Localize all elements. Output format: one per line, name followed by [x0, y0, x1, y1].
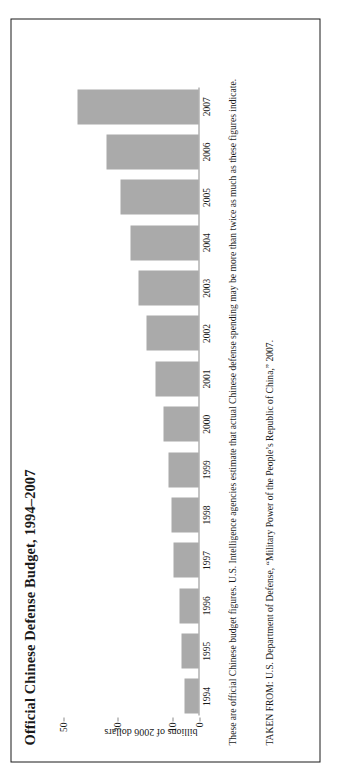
- bar: [130, 225, 197, 260]
- bar: [106, 134, 197, 169]
- figure-frame: Official Chinese Defense Budget, 1994–20…: [10, 18, 320, 762]
- x-axis-tick-label: 1998: [201, 496, 211, 534]
- bar-series: [50, 87, 198, 715]
- bar: [77, 89, 198, 124]
- x-axis-tick-label: 2001: [201, 359, 211, 397]
- bar: [138, 270, 197, 305]
- x-axis-tick-label: 1999: [201, 450, 211, 488]
- x-axis-labels: 1994199519961997199819992000200120022003…: [201, 87, 211, 715]
- bar: [179, 588, 198, 623]
- bar-column: [50, 178, 198, 216]
- x-axis-tick-label: 1994: [201, 677, 211, 715]
- bar: [181, 633, 197, 668]
- bar: [155, 361, 198, 396]
- x-axis-line: [198, 87, 199, 715]
- y-tick-10: 10: [167, 717, 177, 761]
- y-tick-mark: [172, 717, 173, 721]
- bar: [146, 316, 197, 351]
- x-axis-tick-label: 2002: [201, 314, 211, 352]
- x-axis-tick-label: 2006: [201, 133, 211, 171]
- bar: [173, 542, 197, 577]
- y-tick-mark: [63, 717, 64, 721]
- x-axis-tick-label: 2004: [201, 223, 211, 261]
- x-axis-tick-label: 2003: [201, 269, 211, 307]
- bar-column: [50, 405, 198, 443]
- bar-column: [50, 359, 198, 397]
- bar-column: [50, 677, 198, 715]
- x-axis-tick-label: 2007: [201, 87, 211, 125]
- bar-column: [50, 541, 198, 579]
- bar-chart-plot: 1994199519961997199819992000200120022003…: [49, 87, 199, 715]
- x-axis-tick-label: 2000: [201, 405, 211, 443]
- bar-column: [50, 314, 198, 352]
- bar-column: [50, 269, 198, 307]
- y-axis-label: billions of 2006 dollars: [76, 727, 226, 738]
- bar: [120, 179, 198, 214]
- bar: [163, 406, 198, 441]
- figure-note: These are official Chinese budget figure…: [226, 39, 239, 745]
- y-tick-30: 30: [112, 717, 122, 761]
- bar-column: [50, 496, 198, 534]
- bar-column: [50, 632, 198, 670]
- bar-column: [50, 223, 198, 261]
- x-axis-tick-label: 2005: [201, 178, 211, 216]
- bar-column: [50, 87, 198, 125]
- x-axis-tick-label: 1997: [201, 541, 211, 579]
- bar: [168, 452, 198, 487]
- y-tick-0: 0: [194, 717, 204, 761]
- y-axis: 50 30 10 0 billions of 2006 dollars: [49, 717, 199, 761]
- x-axis-tick-label: 1995: [201, 632, 211, 670]
- bar: [184, 679, 197, 714]
- bar: [171, 497, 198, 532]
- y-tick-50: 50: [58, 717, 68, 761]
- y-tick-mark: [117, 717, 118, 721]
- y-tick-mark: [199, 717, 200, 721]
- x-axis-tick-label: 1996: [201, 586, 211, 624]
- bar-column: [50, 450, 198, 488]
- bar-column: [50, 133, 198, 171]
- rotated-figure-stage: Official Chinese Defense Budget, 1994–20…: [0, 0, 337, 780]
- bar-column: [50, 586, 198, 624]
- page-title: Official Chinese Defense Budget, 1994–20…: [21, 469, 38, 745]
- figure-source: TAKEN FROM: U.S. Department of Defense, …: [263, 39, 276, 745]
